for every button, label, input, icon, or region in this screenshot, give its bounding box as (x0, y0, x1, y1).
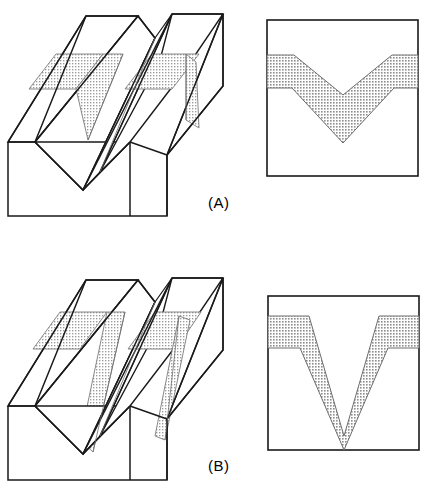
map-view-a (267, 20, 418, 176)
block-diagram-a (8, 14, 223, 216)
panel-label-b: (B) (208, 457, 230, 474)
figure-root: (A) (B) (0, 0, 430, 488)
block-diagram-b (8, 278, 223, 480)
map-view-b (268, 296, 419, 450)
geology-figure-svg (0, 0, 430, 488)
panel-label-a: (A) (208, 194, 230, 211)
